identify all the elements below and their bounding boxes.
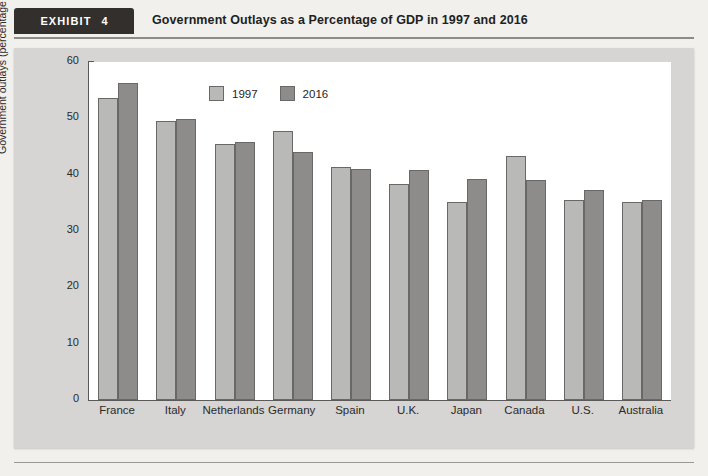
exhibit-header: EXHIBIT 4 Government Outlays as a Percen…	[0, 0, 708, 46]
bar-france-2016	[118, 83, 138, 400]
bar-canada-1997	[506, 156, 526, 400]
bar-group	[564, 62, 604, 400]
x-axis-label: Australia	[619, 404, 664, 416]
exhibit-page: EXHIBIT 4 Government Outlays as a Percen…	[0, 0, 708, 476]
x-axis-labels: FranceItalyNetherlandsGermanySpainU.K.Ja…	[88, 404, 670, 426]
bar-group	[389, 62, 429, 400]
bar-group	[156, 62, 196, 400]
bar-us-2016	[584, 190, 604, 400]
y-tick-label: 60	[67, 54, 79, 66]
bar-us-1997	[564, 200, 584, 400]
legend-item-2016: 2016	[280, 86, 329, 101]
y-tick-label: 10	[67, 336, 79, 348]
bar-italy-1997	[156, 121, 176, 400]
bar-japan-1997	[447, 202, 467, 400]
exhibit-number: 4	[101, 15, 107, 27]
bar-netherlands-2016	[235, 142, 255, 400]
bar-australia-2016	[642, 200, 662, 400]
bar-australia-1997	[622, 202, 642, 400]
x-axis-label: U.S.	[572, 404, 594, 416]
x-axis-label: Germany	[268, 404, 315, 416]
legend-item-1997: 1997	[209, 86, 258, 101]
bar-group	[331, 62, 371, 400]
bar-spain-2016	[351, 169, 371, 400]
x-axis-label: Spain	[335, 404, 364, 416]
bar-uk-1997	[389, 184, 409, 400]
bar-group	[622, 62, 662, 400]
bar-france-1997	[98, 98, 118, 400]
bar-uk-2016	[409, 170, 429, 400]
bar-group	[506, 62, 546, 400]
bars-layer	[89, 62, 671, 400]
plot-area: 1997 2016	[88, 62, 671, 401]
bar-group	[215, 62, 255, 400]
legend-swatch-2016	[280, 86, 295, 101]
footer-divider	[14, 462, 694, 463]
x-axis-label: Italy	[165, 404, 186, 416]
y-axis-label: Government outlays (percentage of GDP)	[0, 0, 8, 154]
header-divider	[14, 37, 694, 39]
bar-germany-1997	[273, 131, 293, 400]
bar-group	[447, 62, 487, 400]
exhibit-tab: EXHIBIT 4	[14, 8, 134, 34]
bar-group	[273, 62, 313, 400]
legend-swatch-1997	[209, 86, 224, 101]
bar-canada-2016	[526, 180, 546, 400]
bar-germany-2016	[293, 152, 313, 400]
y-tick-label: 20	[67, 279, 79, 291]
legend-label-1997: 1997	[232, 88, 258, 100]
x-axis-label: Canada	[504, 404, 544, 416]
y-tick-label: 0	[73, 392, 79, 404]
bar-spain-1997	[331, 167, 351, 400]
x-axis-label: Netherlands	[202, 404, 264, 416]
bar-japan-2016	[467, 179, 487, 400]
bar-netherlands-1997	[215, 144, 235, 400]
chart-panel: Government outlays (percentage of GDP) 0…	[14, 48, 694, 448]
x-axis-label: France	[99, 404, 135, 416]
chart-legend: 1997 2016	[209, 86, 328, 101]
exhibit-title: Government Outlays as a Percentage of GD…	[152, 13, 528, 27]
x-axis-label: Japan	[451, 404, 482, 416]
y-tick-label: 50	[67, 110, 79, 122]
bar-italy-2016	[176, 119, 196, 400]
legend-label-2016: 2016	[303, 88, 329, 100]
y-tick-label: 30	[67, 223, 79, 235]
bar-group	[98, 62, 138, 400]
y-tick-label: 40	[67, 167, 79, 179]
exhibit-label: EXHIBIT	[40, 15, 91, 27]
y-axis: Government outlays (percentage of GDP) 0…	[14, 62, 88, 400]
x-axis-label: U.K.	[397, 404, 419, 416]
